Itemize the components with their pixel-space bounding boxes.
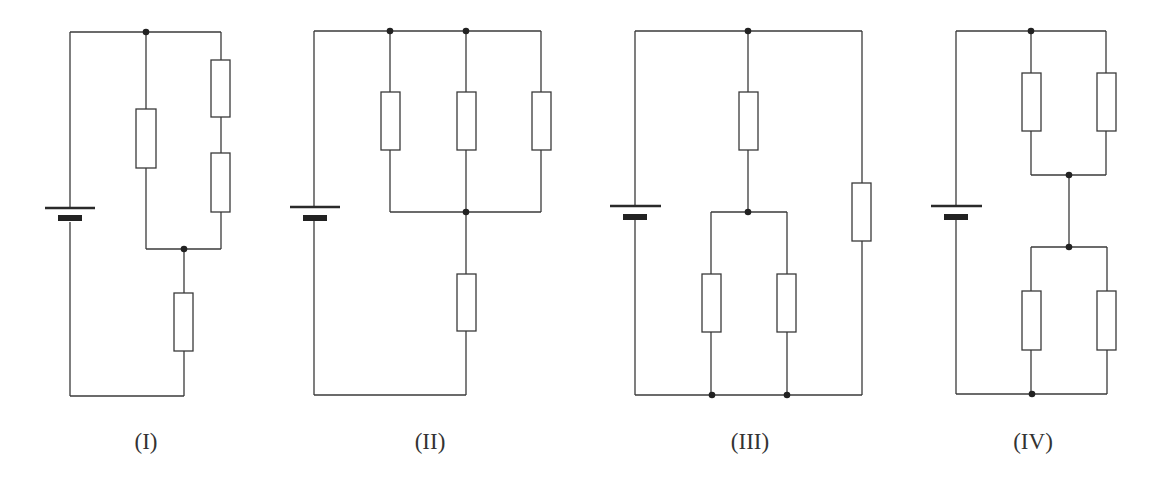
junction-node-icon xyxy=(181,246,188,253)
resistor-icon xyxy=(381,92,400,150)
circuit-IV xyxy=(931,28,1116,398)
resistor-icon xyxy=(739,92,758,150)
resistor-icon xyxy=(1022,73,1041,131)
circuit-label-IV: (IV) xyxy=(1013,429,1053,454)
resistor-icon xyxy=(457,92,476,150)
resistor-icon xyxy=(702,274,721,332)
circuit-III xyxy=(610,28,871,399)
resistor-icon xyxy=(532,92,551,150)
junction-node-icon xyxy=(1066,244,1073,251)
junction-node-icon xyxy=(1029,391,1036,398)
resistor-icon xyxy=(174,293,193,351)
junction-node-icon xyxy=(387,28,394,35)
circuit-label-II: (II) xyxy=(415,429,446,454)
resistor-icon xyxy=(136,109,156,168)
circuit-I xyxy=(45,29,230,396)
resistor-icon xyxy=(457,274,476,331)
resistor-icon xyxy=(852,183,871,241)
junction-node-icon xyxy=(745,209,752,216)
junction-node-icon xyxy=(745,28,752,35)
circuit-diagrams: (I) (II) (III) (IV) xyxy=(0,0,1151,489)
junction-node-icon xyxy=(784,392,791,399)
junction-node-icon xyxy=(1028,28,1035,35)
junction-node-icon xyxy=(143,29,150,36)
junction-node-icon xyxy=(1066,172,1073,179)
resistor-icon xyxy=(1097,291,1116,350)
circuit-II xyxy=(290,28,551,395)
junction-node-icon xyxy=(463,28,470,35)
resistor-icon xyxy=(211,153,230,212)
resistor-icon xyxy=(1022,291,1041,350)
resistor-icon xyxy=(1097,73,1116,131)
junction-node-icon xyxy=(463,209,470,216)
circuit-label-III: (III) xyxy=(731,429,769,454)
junction-node-icon xyxy=(709,392,716,399)
resistor-icon xyxy=(211,60,230,117)
resistor-icon xyxy=(777,274,796,332)
circuit-label-I: (I) xyxy=(135,429,158,454)
